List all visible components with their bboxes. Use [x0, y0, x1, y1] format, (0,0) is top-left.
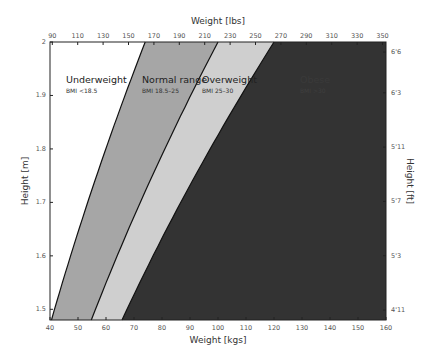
x2-axis-label: Weight [lbs] [191, 16, 245, 26]
y-tick-label: 1.6 [36, 252, 46, 260]
y-tick-label: 1.7 [36, 198, 46, 206]
x2-tick-label: 130 [97, 32, 109, 40]
y-tick-label: 1.9 [36, 91, 46, 99]
x-tick-label: 110 [240, 324, 252, 332]
x-tick-label: 70 [130, 324, 138, 332]
x-tick-label: 150 [352, 324, 364, 332]
x-axis-label: Weight [kgs] [190, 335, 247, 345]
x2-tick-label: 230 [224, 32, 236, 40]
x2-tick-label: 190 [173, 32, 185, 40]
x-tick-label: 160 [380, 324, 392, 332]
zone-label: Obese [300, 74, 330, 85]
y-axis-label: Height [m] [20, 157, 30, 205]
y2-tick-label: 6'6 [391, 48, 401, 56]
zone-sublabel: BMI >30 [300, 87, 326, 94]
x-tick-label: 130 [296, 324, 308, 332]
x2-tick-label: 170 [148, 32, 160, 40]
x-tick-label: 50 [74, 324, 82, 332]
x2-tick-label: 290 [300, 32, 312, 40]
x2-tick-label: 110 [71, 32, 83, 40]
x2-tick-label: 210 [199, 32, 211, 40]
x-tick-label: 80 [158, 324, 166, 332]
y-tick-label: 1.5 [36, 305, 46, 313]
x2-tick-label: 310 [326, 32, 338, 40]
x2-tick-label: 330 [351, 32, 363, 40]
zone-sublabel: BMI <18.5 [66, 87, 98, 94]
x-tick-label: 90 [186, 324, 194, 332]
y2-tick-label: 5'11 [391, 143, 405, 151]
zone-sublabel: BMI 18.5–25 [142, 87, 179, 94]
x2-tick-label: 270 [275, 32, 287, 40]
y2-axis-label: Height [ft] [405, 158, 415, 204]
y-tick-label: 2 [42, 38, 46, 46]
y2-tick-label: 5'7 [391, 197, 401, 205]
bmi-chart: 4050607080901001101201301401501609011013… [0, 0, 429, 362]
y2-tick-label: 6'3 [391, 89, 401, 97]
zone-label: Normal range [142, 74, 207, 85]
x2-tick-label: 150 [122, 32, 134, 40]
y2-tick-label: 5'3 [391, 252, 401, 260]
y-tick-label: 1.8 [36, 145, 46, 153]
x-tick-label: 120 [268, 324, 280, 332]
zone-sublabel: BMI 25–30 [202, 87, 233, 94]
x2-tick-label: 90 [48, 32, 56, 40]
x-tick-label: 60 [102, 324, 110, 332]
x2-tick-label: 350 [376, 32, 388, 40]
x-tick-label: 140 [324, 324, 336, 332]
x-tick-label: 40 [46, 324, 54, 332]
zone-label: Overweight [202, 74, 257, 85]
x-tick-label: 100 [212, 324, 224, 332]
zone-label: Underweight [66, 74, 127, 85]
x2-tick-label: 250 [249, 32, 261, 40]
y2-tick-label: 4'11 [391, 306, 405, 314]
